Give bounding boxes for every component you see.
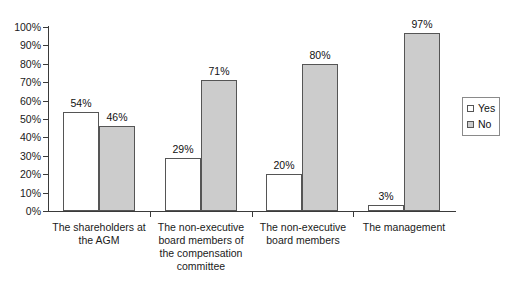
category-label-line: the AGM	[44, 234, 154, 247]
category-label-line: The shareholders at	[44, 221, 154, 234]
y-axis-tick-label: 20%	[0, 169, 41, 179]
y-axis-tick-label: 10%	[0, 188, 41, 198]
bar-yes-group-2	[165, 158, 201, 211]
y-axis-tick-label: 30%	[0, 151, 41, 161]
bar-no-group-4	[404, 33, 440, 211]
y-axis-tick-label: 60%	[0, 96, 41, 106]
x-axis-group-tick	[150, 212, 151, 217]
category-label-line: The non-executive	[248, 221, 358, 234]
bar-value-label: 54%	[55, 98, 107, 109]
bar-value-label: 97%	[396, 19, 448, 30]
x-axis-category-label: The shareholders atthe AGM	[44, 221, 154, 247]
category-label-line: The non-executive	[146, 221, 256, 234]
bar-yes-group-1	[63, 112, 99, 211]
bar-no-group-3	[302, 64, 338, 211]
bar-value-label: 29%	[157, 144, 209, 155]
bar-value-label: 71%	[193, 66, 245, 77]
legend-swatch-icon	[467, 105, 474, 112]
bar-value-label: 80%	[294, 50, 346, 61]
x-axis-category-label: The non-executiveboard members ofthe com…	[146, 221, 256, 273]
y-axis-tick-label: 70%	[0, 77, 41, 87]
bar-yes-group-4	[368, 205, 404, 211]
bar-value-label: 20%	[258, 160, 310, 171]
legend: YesNo	[462, 97, 500, 136]
y-axis-tick-label: 80%	[0, 59, 41, 69]
y-axis-tick-label: 90%	[0, 40, 41, 50]
x-axis-category-label: The management	[349, 221, 459, 234]
y-axis-tick-label: 100%	[0, 22, 41, 32]
category-label-line: board members of	[146, 234, 256, 247]
category-label-line: the compensation	[146, 247, 256, 260]
legend-item-yes[interactable]: Yes	[467, 102, 495, 115]
bar-value-label: 3%	[360, 191, 412, 202]
legend-item-label: No	[478, 119, 491, 130]
category-label-line: The management	[349, 221, 459, 234]
y-axis-tick-label: 0%	[0, 206, 41, 216]
bar-yes-group-3	[266, 174, 302, 211]
bar-value-label: 46%	[91, 112, 143, 123]
category-label-line: committee	[146, 260, 256, 273]
x-axis-group-tick	[252, 212, 253, 217]
bar-no-group-1	[99, 126, 135, 211]
y-axis-tick-label: 50%	[0, 114, 41, 124]
category-label-line: board members	[248, 234, 358, 247]
legend-swatch-icon	[467, 121, 474, 128]
x-axis-group-tick	[353, 212, 354, 217]
legend-item-no[interactable]: No	[467, 118, 495, 131]
legend-item-label: Yes	[478, 103, 495, 114]
bar-chart: 0%10%20%30%40%50%60%70%80%90%100% 54%46%…	[0, 0, 512, 289]
x-axis-category-label: The non-executiveboard members	[248, 221, 358, 247]
y-axis-tick-label: 40%	[0, 132, 41, 142]
